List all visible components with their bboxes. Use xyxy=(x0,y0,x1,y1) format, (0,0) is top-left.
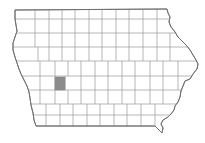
highlighted-county-audubon[interactable] xyxy=(55,77,65,90)
iowa-county-map xyxy=(0,0,205,143)
